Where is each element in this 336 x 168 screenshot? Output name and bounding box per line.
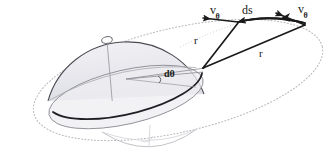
label-ds: ds [242, 4, 253, 16]
label-v-theta-left-subscript: θ [216, 12, 220, 21]
lower-hemisphere [102, 125, 197, 147]
label-d-theta: dθ [164, 69, 175, 79]
figure-root: vθ ds vθ r r dθ [0, 0, 336, 168]
radius-vector-long [203, 25, 305, 68]
label-v-theta-right-subscript: θ [304, 11, 308, 20]
diagram-canvas [0, 0, 336, 168]
label-r-long: r [259, 48, 263, 59]
label-r-short: r [194, 35, 198, 46]
label-v-theta-right: vθ [298, 3, 308, 18]
label-v-theta-left: vθ [210, 4, 220, 19]
